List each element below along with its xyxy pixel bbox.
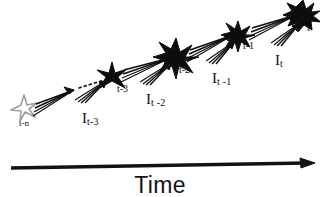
input-label-subscript: t — [280, 58, 283, 69]
temporal-propagation-diagram: t-n t-3 t-2 t-1 t It-3 It -2 It -1 It Ti… — [0, 0, 320, 197]
node-label-t-2: t-2 — [179, 65, 190, 75]
input-label-subscript: t -2 — [151, 97, 165, 108]
time-axis-label: Time — [0, 172, 320, 197]
input-label-I-t-1: It -1 — [212, 70, 231, 87]
input-label-subscript: t -1 — [217, 76, 231, 87]
node-label-t-1: t-1 — [243, 41, 254, 51]
time-arrow — [11, 158, 315, 168]
input-label-subscript: t-3 — [87, 116, 99, 127]
node-label-t-3: t-3 — [117, 84, 128, 94]
input-label-I-t: It — [275, 52, 283, 69]
node-label-t: t — [307, 23, 310, 33]
input-label-I-t-3: It-3 — [82, 110, 99, 127]
star-node-t — [283, 0, 320, 32]
node-label-t-n: t-n — [19, 119, 29, 128]
input-label-I-t-2: It -2 — [146, 91, 165, 108]
